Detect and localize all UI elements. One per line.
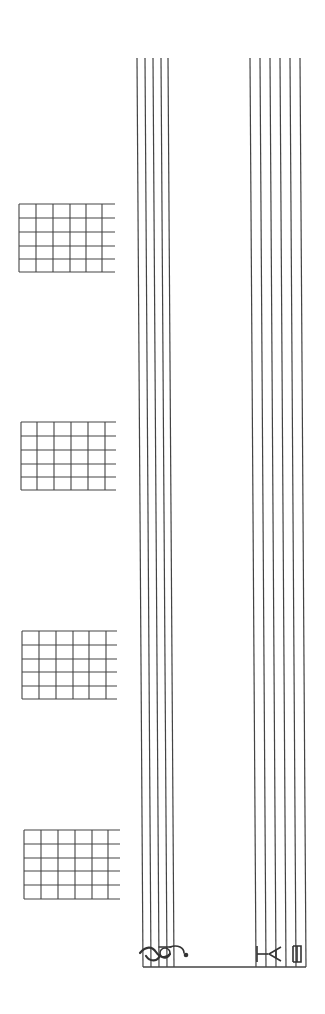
tab-line-4 xyxy=(280,58,286,967)
staff-line-1 xyxy=(137,58,143,967)
chord-diagram-3 xyxy=(22,631,117,699)
staff-line-2 xyxy=(145,58,151,967)
chord-diagram-2 xyxy=(21,422,116,490)
tab-line-6 xyxy=(300,58,306,967)
tab-line-1 xyxy=(250,58,256,967)
staff-line-3 xyxy=(153,58,159,967)
treble-clef-icon xyxy=(140,946,188,960)
tab-line-3 xyxy=(270,58,276,967)
tab-label xyxy=(257,946,301,962)
music-sheet xyxy=(0,0,325,1014)
tab-line-2 xyxy=(260,58,266,967)
chord-diagram-1 xyxy=(19,204,115,272)
standard-staff xyxy=(137,58,174,967)
chord-diagram-4 xyxy=(24,830,120,899)
staff-line-5 xyxy=(168,58,174,967)
tab-line-5 xyxy=(290,58,296,967)
tab-staff xyxy=(250,58,306,967)
staff-line-4 xyxy=(161,58,167,967)
